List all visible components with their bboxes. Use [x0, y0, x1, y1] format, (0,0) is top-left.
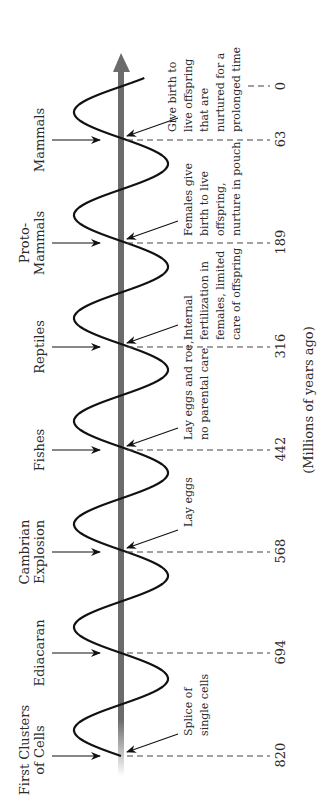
- description-line: Females give: [181, 142, 197, 236]
- description-line: nurtured for a: [213, 47, 229, 132]
- era-pointer-arrows: [52, 140, 100, 756]
- era-label-line: Reptiles: [32, 292, 47, 402]
- era-label-line: Cambrian: [17, 497, 32, 607]
- description-pointer-arrow-icon: [127, 734, 178, 752]
- era-label-line: of Cells: [32, 695, 47, 804]
- era-label-fishes: Fishes: [32, 395, 47, 505]
- era-label-reptiles: Reptiles: [32, 292, 47, 402]
- description-pointer-arrow-icon: [127, 325, 178, 343]
- description-line: Internal: [181, 248, 197, 340]
- description-pointer-arrow-icon: [127, 428, 178, 446]
- era-label-line: Fishes: [32, 395, 47, 505]
- description-line: Lay eggs: [181, 477, 197, 527]
- era-label-ediacaran: Ediacaran: [32, 598, 47, 708]
- description-line: Splice of: [181, 674, 197, 736]
- description-line: offspring,: [213, 142, 229, 236]
- era-label-mammals: Mammals: [32, 85, 47, 195]
- tick-0: 0: [273, 66, 288, 106]
- description-mammals: Give birth to live offspring that are nu…: [165, 47, 245, 132]
- evolution-timeline-diagram: First Clusters of Cells Ediacaran Cambri…: [0, 0, 322, 804]
- tick-568: 568: [273, 531, 288, 571]
- tick-442: 442: [273, 429, 288, 469]
- tick-189: 189: [273, 222, 288, 262]
- tick-label: 694: [273, 640, 288, 665]
- era-label-line: Ediacaran: [32, 598, 47, 708]
- era-label-proto-mammals: Proto- Mammals: [17, 188, 47, 298]
- time-axis: [113, 53, 130, 776]
- description-fishes: Lay eggs and roe, no parental care: [181, 341, 213, 440]
- description-line: birth to live: [197, 142, 213, 236]
- axis-title-text: (Millions of years ago): [301, 326, 316, 474]
- tick-63: 63: [273, 119, 288, 159]
- tick-label: 820: [273, 743, 288, 768]
- description-line: nurture in pouch: [229, 142, 245, 236]
- tick-label: 568: [273, 539, 288, 564]
- description-line: Give birth to: [165, 47, 181, 132]
- description-line: that are: [197, 47, 213, 132]
- description-line: no parental care: [197, 341, 213, 440]
- axis-title: (Millions of years ago): [301, 320, 316, 480]
- description-pointer-arrow-icon: [127, 530, 178, 548]
- description-proto-mammals: Females give birth to live offspring, nu…: [181, 142, 245, 236]
- era-label-line: Mammals: [32, 85, 47, 195]
- tick-label: 189: [273, 230, 288, 255]
- era-label-line: First Clusters: [17, 695, 32, 804]
- tick-label: 0: [273, 82, 288, 90]
- tick-820: 820: [273, 735, 288, 775]
- description-line: care of offspring: [229, 248, 245, 340]
- description-pointer-arrow-icon: [127, 221, 178, 239]
- description-first-clusters: Splice of single cells: [181, 674, 213, 736]
- description-line: live offspring: [181, 47, 197, 132]
- description-line: prolonged time: [229, 47, 245, 132]
- time-axis-arrowhead-icon: [113, 53, 130, 72]
- era-label-line: Explosion: [32, 497, 47, 607]
- description-line: fertilization in: [197, 248, 213, 340]
- time-axis-shaft: [118, 70, 124, 776]
- tick-label: 442: [273, 437, 288, 462]
- description-line: single cells: [197, 674, 213, 736]
- era-label-line: Mammals: [32, 188, 47, 298]
- description-reptiles: Internal fertilization in females, limit…: [181, 248, 245, 340]
- tick-316: 316: [273, 326, 288, 366]
- era-label-line: Proto-: [17, 188, 32, 298]
- era-label-first-clusters: First Clusters of Cells: [17, 695, 47, 804]
- tick-label: 316: [273, 334, 288, 359]
- description-line: Lay eggs and roe,: [181, 341, 197, 440]
- description-line: females, limited: [213, 248, 229, 340]
- tick-label: 63: [273, 131, 288, 148]
- description-cambrian: Lay eggs: [181, 477, 197, 527]
- tick-694: 694: [273, 632, 288, 672]
- era-label-cambrian-explosion: Cambrian Explosion: [17, 497, 47, 607]
